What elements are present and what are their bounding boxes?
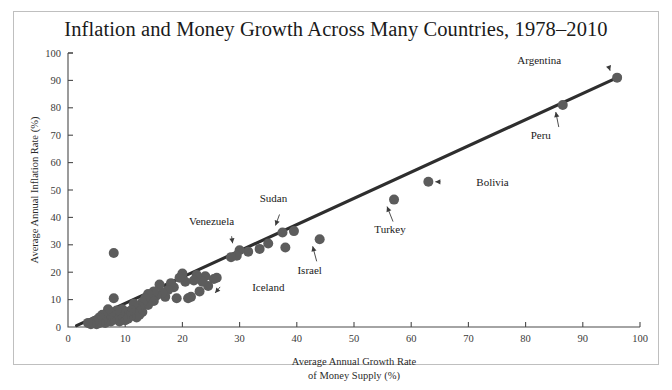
x-tick-label: 40 — [292, 333, 303, 344]
annotation-label-bolivia: Bolivia — [476, 176, 509, 188]
x-tick-label: 60 — [406, 333, 417, 344]
x-tick-label: 100 — [632, 333, 648, 344]
data-point — [175, 273, 185, 283]
figure-container: Inflation and Money Growth Across Many C… — [0, 0, 672, 390]
annotation-label-turkey: Turkey — [374, 223, 406, 235]
data-point — [109, 248, 119, 258]
data-point — [263, 238, 273, 248]
x-tick-label: 90 — [578, 333, 589, 344]
annotation-label-iceland: Iceland — [252, 281, 285, 293]
axis-lines — [68, 53, 640, 327]
data-point — [109, 293, 119, 303]
annotation-label-israel: Israel — [297, 264, 321, 276]
y-tick-label: 80 — [51, 102, 62, 113]
x-axis-title-line1: Average Annual Growth Rate — [292, 356, 417, 367]
scatter-plot: 0102030405060708090100010203040506070809… — [0, 0, 672, 390]
y-tick-label: 30 — [51, 239, 62, 250]
data-point — [255, 244, 265, 254]
data-point — [558, 100, 568, 110]
x-tick-label: 10 — [120, 333, 131, 344]
annotation-israel-arrowhead — [311, 246, 316, 252]
y-tick-label: 70 — [51, 130, 62, 141]
x-axis-title-line2: of Money Supply (%) — [308, 370, 400, 382]
annotation-label-peru: Peru — [531, 129, 552, 141]
data-point — [172, 293, 182, 303]
data-point — [315, 234, 325, 244]
y-tick-label: 100 — [45, 48, 61, 59]
data-point — [83, 318, 93, 328]
data-point — [243, 247, 253, 257]
annotation-label-sudan: Sudan — [260, 192, 288, 204]
annotation-peru-arrowhead — [554, 112, 559, 117]
x-tick-label: 0 — [65, 333, 70, 344]
y-axis-title: Average Annual Inflation Rate (%) — [29, 116, 41, 263]
y-tick-label: 10 — [51, 294, 62, 305]
data-point — [226, 252, 236, 262]
annotation-bolivia-arrowhead — [435, 179, 440, 184]
annotation-label-venezuela: Venezuela — [189, 215, 234, 227]
x-tick-label: 70 — [463, 333, 474, 344]
data-point — [280, 243, 290, 253]
data-point — [389, 195, 399, 205]
annotation-venezuela-arrowhead — [229, 238, 234, 243]
data-point — [189, 275, 199, 285]
x-tick-label: 20 — [177, 333, 188, 344]
data-point — [195, 286, 205, 296]
y-tick-label: 40 — [51, 212, 62, 223]
data-point — [289, 226, 299, 236]
data-point — [183, 293, 193, 303]
x-tick-label: 50 — [349, 333, 360, 344]
y-tick-label: 20 — [51, 267, 62, 278]
x-tick-label: 80 — [520, 333, 531, 344]
data-point — [423, 177, 433, 187]
y-tick-label: 50 — [51, 185, 62, 196]
annotation-label-argentina: Argentina — [517, 54, 561, 66]
x-tick-label: 30 — [234, 333, 245, 344]
y-tick-label: 0 — [56, 322, 61, 333]
y-tick-label: 90 — [51, 75, 62, 86]
y-tick-label: 60 — [51, 157, 62, 168]
data-point — [278, 227, 288, 237]
data-point — [612, 73, 622, 83]
